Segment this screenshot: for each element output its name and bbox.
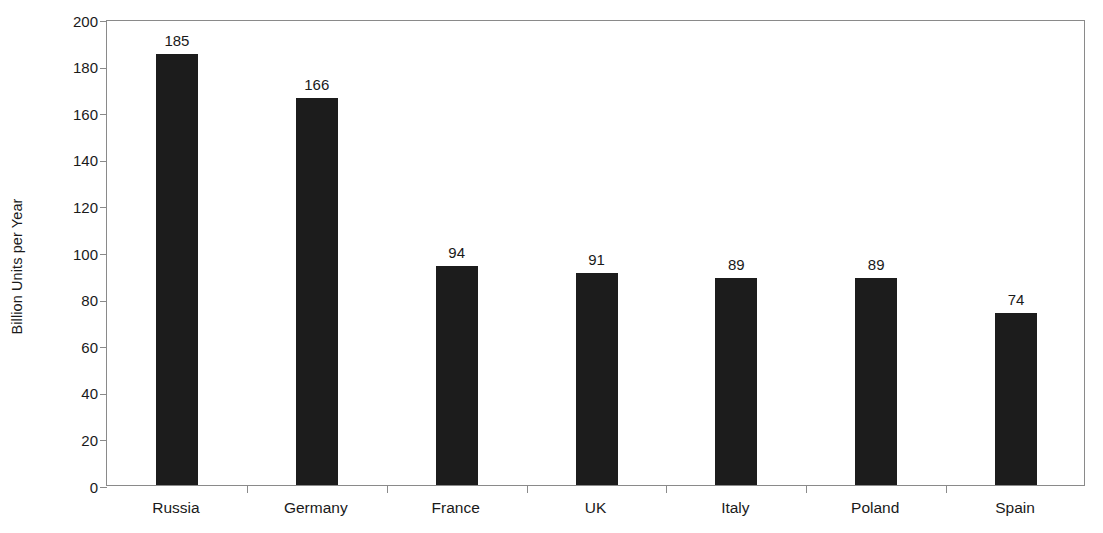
bar-value-label: 166: [304, 77, 329, 92]
bar: 166: [296, 98, 338, 485]
bar: 74: [995, 313, 1037, 485]
y-axis-tick-mark: [100, 394, 107, 395]
x-axis-category-label: Germany: [284, 500, 348, 516]
bar-value-label: 89: [868, 257, 885, 272]
bar: 91: [576, 273, 618, 485]
x-axis-tick-mark: [666, 485, 667, 493]
y-axis-tick-mark: [100, 21, 107, 22]
bar-value-label: 185: [164, 33, 189, 48]
x-axis-category-label: Spain: [995, 500, 1035, 516]
x-axis-tick-mark: [387, 485, 388, 493]
bar-value-label: 89: [728, 257, 745, 272]
y-axis-title: Billion Units per Year: [0, 0, 34, 533]
bar: 89: [715, 278, 757, 485]
bar-value-label: 94: [448, 245, 465, 260]
bar: 94: [436, 266, 478, 485]
bar: 185: [156, 54, 198, 485]
y-axis-tick-mark: [100, 161, 107, 162]
y-axis-tick-mark: [100, 347, 107, 348]
x-axis-category-label: Russia: [152, 500, 199, 516]
x-axis-category-label: Poland: [851, 500, 899, 516]
x-axis-category-label: UK: [585, 500, 607, 516]
x-axis-tick-mark: [806, 485, 807, 493]
bar-chart-figure: Billion Units per Year 02040608010012014…: [0, 0, 1103, 533]
y-axis-tick-mark: [100, 68, 107, 69]
x-axis-category-labels: RussiaGermanyFranceUKItalyPolandSpain: [106, 500, 1085, 524]
y-axis-tick-mark: [100, 487, 107, 488]
y-axis-tick-mark: [100, 114, 107, 115]
x-axis-category-label: Italy: [721, 500, 749, 516]
x-axis-tick-mark: [247, 485, 248, 493]
x-axis-category-label: France: [432, 500, 480, 516]
y-axis-tick-mark: [100, 207, 107, 208]
y-axis-tick-mark: [100, 254, 107, 255]
bar: 89: [855, 278, 897, 485]
y-axis-tick-mark: [100, 440, 107, 441]
x-axis-tick-mark: [527, 485, 528, 493]
plot-area: 020406080100120140160180200 185166949189…: [106, 20, 1085, 486]
x-axis-tick-mark: [946, 485, 947, 493]
bar-value-label: 74: [1008, 292, 1025, 307]
bar-value-label: 91: [588, 252, 605, 267]
y-axis-tick-mark: [100, 301, 107, 302]
